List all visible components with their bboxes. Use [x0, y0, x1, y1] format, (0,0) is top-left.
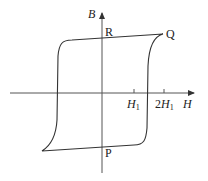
b-axis-label: B: [88, 7, 96, 21]
point-q-label: Q: [166, 27, 175, 41]
tick-label-h1: H1: [126, 97, 140, 112]
point-p-label: P: [105, 146, 112, 160]
tick-2h1-sub: 1: [170, 103, 174, 112]
tick-label-2h1: 2H1: [155, 97, 174, 112]
hysteresis-diagram: B H H1 2H1 R Q P: [0, 0, 208, 181]
tick-h1-sub: 1: [136, 103, 140, 112]
h-axis-label: H: [182, 97, 193, 111]
point-r-label: R: [105, 25, 113, 39]
